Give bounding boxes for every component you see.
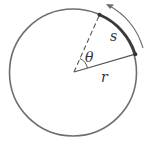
angle-label: θ <box>85 49 94 65</box>
arc-label: s <box>110 28 117 44</box>
radius-label: r <box>101 69 109 85</box>
arc-s <box>100 15 136 54</box>
arc-length-diagram: s θ r <box>0 0 146 151</box>
arc-start-point <box>98 13 102 17</box>
diagram-canvas: s θ r <box>0 0 146 151</box>
arc-end-point <box>133 52 137 56</box>
